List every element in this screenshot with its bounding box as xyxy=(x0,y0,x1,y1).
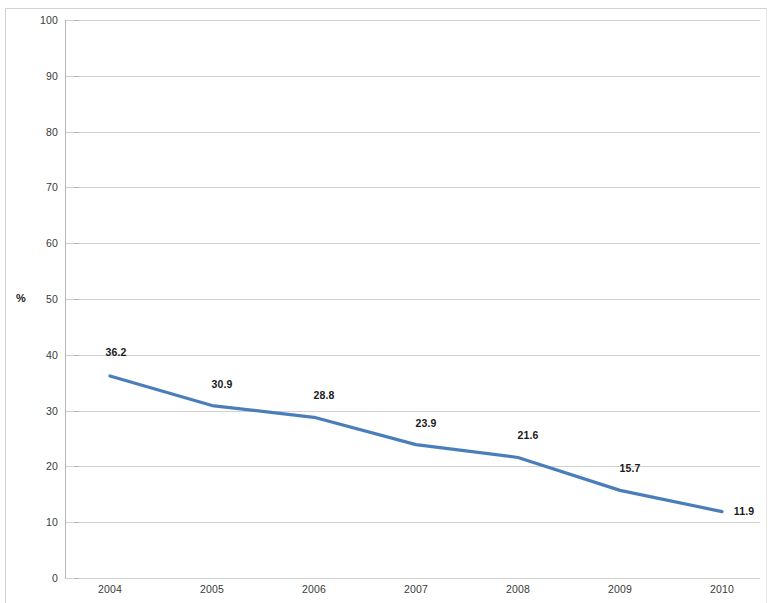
data-label-2005: 30.9 xyxy=(212,378,233,390)
x-tick-label-2008: 2008 xyxy=(506,583,530,595)
data-label-2006: 28.8 xyxy=(314,389,335,401)
x-tick-label-2004: 2004 xyxy=(98,583,122,595)
series-line xyxy=(110,376,722,512)
data-label-2008: 21.6 xyxy=(518,429,539,441)
data-label-2010: 11.9 xyxy=(734,505,754,517)
x-tick-label-2007: 2007 xyxy=(404,583,428,595)
x-axis-ticks: 2004200520062007200820092010 xyxy=(65,583,760,603)
x-tick-label-2005: 2005 xyxy=(200,583,224,595)
x-tick-label-2006: 2006 xyxy=(302,583,326,595)
data-label-2009: 15.7 xyxy=(620,462,641,474)
data-label-2004: 36.2 xyxy=(106,346,127,358)
data-label-2007: 23.9 xyxy=(416,417,437,429)
line-chart: 0102030405060708090100 % 36.230.928.823.… xyxy=(0,0,779,603)
x-tick-label-2009: 2009 xyxy=(608,583,632,595)
series-line-group xyxy=(0,0,779,603)
chart-screenshot: 0102030405060708090100 % 36.230.928.823.… xyxy=(0,0,779,603)
x-tick-label-2010: 2010 xyxy=(710,583,734,595)
